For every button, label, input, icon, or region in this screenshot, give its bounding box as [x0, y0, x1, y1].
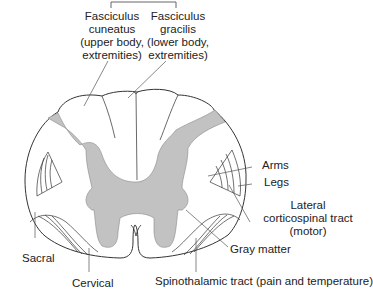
label-arms: Arms: [262, 159, 289, 172]
label-cervical: Cervical: [72, 277, 114, 290]
label-spinothalamic-tract: Spinothalamic tract (pain and temperatur…: [155, 275, 373, 288]
label-fasciculus-cuneatus: Fasciculus cuneatus (upper body, extremi…: [79, 10, 145, 62]
label-legs: Legs: [264, 176, 289, 189]
label-gray-matter: Gray matter: [230, 243, 291, 256]
dorsal-column-bracket: [111, 2, 176, 8]
label-lateral-corticospinal-tract: Lateral corticospinal tract (motor): [258, 199, 358, 238]
label-sacral: Sacral: [22, 252, 55, 265]
label-fasciculus-gracilis: Fasciculus gracilis (lower body, extremi…: [146, 10, 210, 62]
